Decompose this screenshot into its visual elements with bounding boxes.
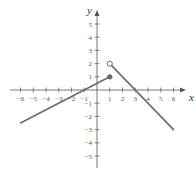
x-axis-label: x — [188, 91, 194, 103]
y-axis-label: y — [86, 4, 92, 16]
x-tick-label: 6 — [172, 95, 176, 103]
axes — [10, 10, 186, 168]
open-endpoint-icon — [107, 61, 112, 66]
x-axis-arrow-icon — [180, 88, 186, 93]
x-tick-label: 3 — [134, 95, 138, 103]
y-tick-label: −1 — [85, 100, 93, 108]
closed-endpoint-icon — [107, 74, 112, 79]
x-tick-label: 5 — [159, 95, 163, 103]
right-piece-line — [110, 64, 174, 130]
y-tick-label: 5 — [89, 21, 93, 29]
x-tick-label: −6 — [17, 95, 25, 103]
y-tick-label: 4 — [89, 34, 93, 42]
ticks: −6−5−4−3−2−112345654321−1−2−3−4−5 — [17, 21, 176, 161]
axis-labels: xy — [86, 4, 194, 103]
y-tick-label: 1 — [89, 73, 93, 81]
y-tick-label: −4 — [85, 139, 93, 147]
y-tick-label: 2 — [89, 60, 93, 68]
y-tick-label: −3 — [85, 126, 93, 134]
y-tick-label: 3 — [89, 47, 93, 55]
x-tick-label: 2 — [121, 95, 125, 103]
y-tick-label: −2 — [85, 113, 93, 121]
piecewise-function-graph: −6−5−4−3−2−112345654321−1−2−3−4−5 xy — [0, 0, 196, 178]
y-tick-label: −5 — [85, 153, 93, 161]
x-tick-label: −5 — [30, 95, 38, 103]
y-axis-arrow-icon — [95, 10, 100, 16]
x-tick-label: 1 — [108, 95, 112, 103]
x-tick-label: −4 — [42, 95, 50, 103]
